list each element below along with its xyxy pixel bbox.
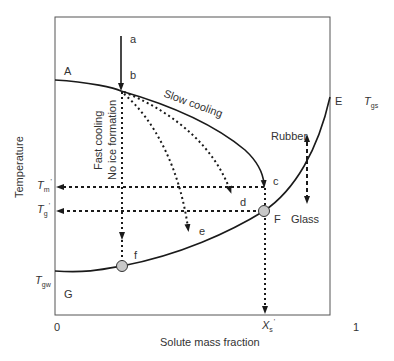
point-F-marker [259,206,270,217]
label-b: b [130,70,136,81]
label-e: e [199,226,205,237]
tick-tg: Tg' [37,204,50,215]
label-c: c [273,176,279,187]
tick-x1: 1 [353,322,359,333]
label-f: f [134,250,137,261]
tick-tm: Tm' [37,180,52,191]
rubber-label: Rubber [271,131,307,142]
tick-x0: 0 [54,322,60,333]
label-G: G [64,289,73,300]
no-ice-formation-label: No ice formation [106,100,118,180]
label-d: d [240,197,246,208]
label-E: E [335,96,342,107]
cooling-path-e [124,94,188,228]
state-diagram-canvas [0,0,394,361]
fast-cooling-label: Fast cooling [92,111,104,170]
label-A: A [64,66,71,77]
tick-tgs: Tgs [364,96,378,107]
point-f-marker [117,261,128,272]
x-axis-title: Solute mass fraction [160,337,260,348]
label-F: F [274,214,281,225]
liquidus-curve [55,80,264,184]
label-a: a [130,34,136,45]
y-axis-title: Temperature [13,136,25,198]
tick-tgw: Tgw [35,275,51,286]
glass-label: Glass [291,214,319,225]
tick-xs: Xs' [262,320,275,331]
